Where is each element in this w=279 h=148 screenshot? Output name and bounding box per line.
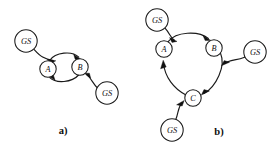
node-label: B (211, 44, 216, 53)
a-edge-gsright-to-b (84, 73, 98, 88)
b-edge-gsright-to-b (221, 57, 244, 66)
arrow-head (161, 60, 167, 69)
panel-a: GS A B GS a) (15, 30, 118, 137)
edge-line (165, 28, 174, 40)
panel-b: GS A B GS C GS b) (146, 9, 266, 141)
b-node-state-a[interactable]: A (156, 41, 172, 57)
b-node-state-b[interactable]: B (206, 40, 222, 56)
node-label: GS (250, 48, 261, 57)
b-node-gs-right[interactable]: GS (244, 41, 266, 63)
arrow-head (203, 36, 211, 41)
edge-line (204, 53, 222, 93)
node-label: GS (167, 126, 178, 135)
node-label: A (44, 65, 51, 74)
node-label: C (190, 94, 196, 103)
node-label: GS (102, 89, 113, 98)
arrow-head (84, 73, 91, 78)
a-node-state-b[interactable]: B (72, 59, 88, 75)
a-node-gs-right[interactable]: GS (96, 82, 118, 104)
b-node-state-c[interactable]: C (185, 90, 201, 106)
b-node-gs-top[interactable]: GS (146, 9, 168, 31)
a-node-state-a[interactable]: A (40, 61, 56, 77)
a-node-gs-left[interactable]: GS (15, 30, 37, 52)
node-label: B (77, 63, 82, 72)
b-edge-c-to-a (161, 60, 186, 95)
b-edge-b-to-c (201, 53, 222, 95)
b-edge-gstop-to-a (165, 28, 177, 42)
node-label: GS (21, 37, 32, 46)
state-transition-diagram: GS A B GS a) (0, 0, 279, 148)
panel-b-caption: b) (214, 126, 224, 138)
edge-line (163, 63, 186, 95)
figure-root: GS A B GS a) (0, 0, 279, 148)
edge-line (87, 75, 98, 89)
b-edge-gsbottom-to-c (176, 100, 184, 119)
node-label: A (160, 45, 167, 54)
panel-a-caption: a) (59, 125, 68, 137)
node-label: GS (152, 16, 163, 25)
arrow-head (177, 100, 185, 106)
b-node-gs-bottom[interactable]: GS (161, 119, 183, 141)
